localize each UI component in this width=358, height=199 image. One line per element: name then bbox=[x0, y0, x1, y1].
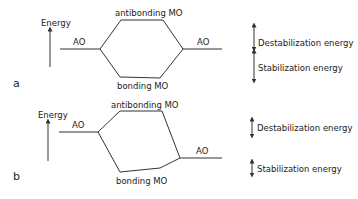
energy-legend: Destabilization energy Stabilization ene… bbox=[254, 25, 354, 81]
energy-legend: Destabilization energy Stabilization ene… bbox=[252, 119, 353, 175]
energy-axis: Energy bbox=[41, 18, 71, 67]
antibonding-mo-label: antibonding MO bbox=[115, 8, 183, 18]
right-ao-label: AO bbox=[196, 146, 209, 156]
energy-label: Energy bbox=[41, 18, 71, 28]
destabilization-label: Destabilization energy bbox=[257, 123, 353, 133]
left-ao-label: AO bbox=[72, 120, 85, 130]
right-ao-label: AO bbox=[197, 37, 210, 47]
stabilization-label: Stabilization energy bbox=[257, 164, 342, 174]
mo-correlation-lines bbox=[100, 20, 183, 78]
energy-axis: Energy bbox=[38, 110, 68, 161]
mo-diagram: a Energy AO antibonding MO bonding MO AO… bbox=[0, 0, 358, 199]
energy-label: Energy bbox=[38, 110, 68, 120]
panel-a: a Energy AO antibonding MO bonding MO AO… bbox=[13, 8, 354, 91]
panel-label: a bbox=[13, 77, 20, 90]
panel-b: b Energy AO antibonding MO bonding MO AO… bbox=[13, 100, 353, 186]
left-ao-label: AO bbox=[73, 37, 86, 47]
stabilization-label: Stabilization energy bbox=[258, 63, 343, 73]
antibonding-mo-label: antibonding MO bbox=[111, 100, 179, 110]
bonding-mo-label: bonding MO bbox=[117, 81, 169, 91]
mo-correlation-lines bbox=[98, 111, 180, 172]
panel-label: b bbox=[13, 170, 20, 183]
bonding-mo-label: bonding MO bbox=[116, 176, 168, 186]
destabilization-label: Destabilization energy bbox=[258, 38, 354, 48]
